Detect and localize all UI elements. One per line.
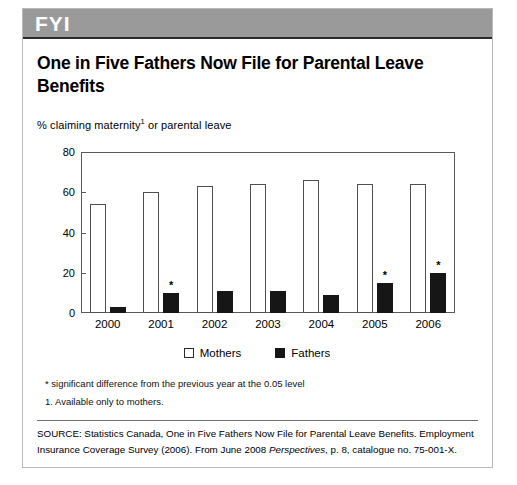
legend-item-mothers: Mothers: [184, 347, 242, 359]
x-axis-tick-label-2006: 2006: [402, 318, 455, 330]
x-axis-tick-label-2002: 2002: [188, 318, 241, 330]
bar-mothers-2004: [303, 180, 319, 313]
chart-legend: MothersFathers: [37, 347, 477, 359]
y-axis-tick-label: 80: [37, 147, 75, 157]
page-root: FYI One in Five Fathers Now File for Par…: [0, 0, 517, 485]
chart-subtitle-prefix: % claiming maternity: [37, 119, 140, 131]
y-axis-tick-label: 40: [37, 228, 75, 238]
bar-fathers-2004: [323, 295, 339, 313]
bar-mothers-2000: [90, 204, 106, 313]
legend-label: Mothers: [200, 347, 242, 359]
y-axis-tick-mark: [81, 233, 86, 234]
bar-fathers-2001: [163, 293, 179, 313]
page-title: One in Five Fathers Now File for Parenta…: [37, 52, 467, 98]
bar-mothers-2006: [410, 184, 426, 313]
fyi-header-band: FYI: [23, 9, 492, 39]
y-axis-tick-mark: [81, 273, 86, 274]
source-citation: SOURCE: Statistics Canada, One in Five F…: [37, 426, 483, 458]
footnote-note-one: 1. Available only to mothers.: [45, 393, 465, 411]
x-axis-tick-label-2005: 2005: [348, 318, 401, 330]
y-axis-tick-label: 20: [37, 268, 75, 278]
bar-fathers-2006: [430, 273, 446, 313]
x-axis-tick-label-2001: 2001: [134, 318, 187, 330]
legend-swatch-icon-fathers: [275, 348, 285, 358]
x-axis-tick-label-2000: 2000: [81, 318, 134, 330]
bar-mothers-2003: [250, 184, 266, 313]
legend-item-fathers: Fathers: [275, 347, 330, 359]
bar-fathers-2000: [110, 307, 126, 313]
bar-fathers-2005: [377, 283, 393, 313]
chart-subtitle: % claiming maternity1 or parental leave: [37, 119, 232, 131]
bar-mothers-2005: [357, 184, 373, 313]
significance-star-2006: *: [430, 261, 446, 269]
legend-swatch-icon-mothers: [184, 348, 194, 358]
bar-chart: 0204060802000200120022003200420052006 **…: [37, 142, 477, 342]
chart-footnotes: * significant difference from the previo…: [45, 375, 465, 411]
bar-fathers-2003: [270, 291, 286, 313]
x-axis-tick-label-2003: 2003: [241, 318, 294, 330]
bar-fathers-2002: [217, 291, 233, 313]
significance-star-2005: *: [377, 271, 393, 279]
x-axis-tick-label-2004: 2004: [295, 318, 348, 330]
y-axis-tick-mark: [81, 192, 86, 193]
legend-label: Fathers: [291, 347, 330, 359]
fyi-article-box: FYI One in Five Fathers Now File for Par…: [22, 8, 493, 468]
significance-star-2001: *: [163, 281, 179, 289]
footnote-significance: * significant difference from the previo…: [45, 375, 465, 393]
chart-plot-area: [81, 152, 455, 313]
fyi-label: FYI: [35, 12, 71, 36]
bar-mothers-2002: [197, 186, 213, 313]
source-divider: [37, 420, 478, 421]
source-publication-name: Perspectives: [269, 444, 325, 455]
bar-mothers-2001: [143, 192, 159, 313]
chart-subtitle-suffix: or parental leave: [145, 119, 232, 131]
source-text-part-two: , p. 8, catalogue no. 75-001-X.: [325, 444, 457, 455]
y-axis-tick-label: 0: [37, 308, 75, 318]
y-axis-tick-label: 60: [37, 187, 75, 197]
